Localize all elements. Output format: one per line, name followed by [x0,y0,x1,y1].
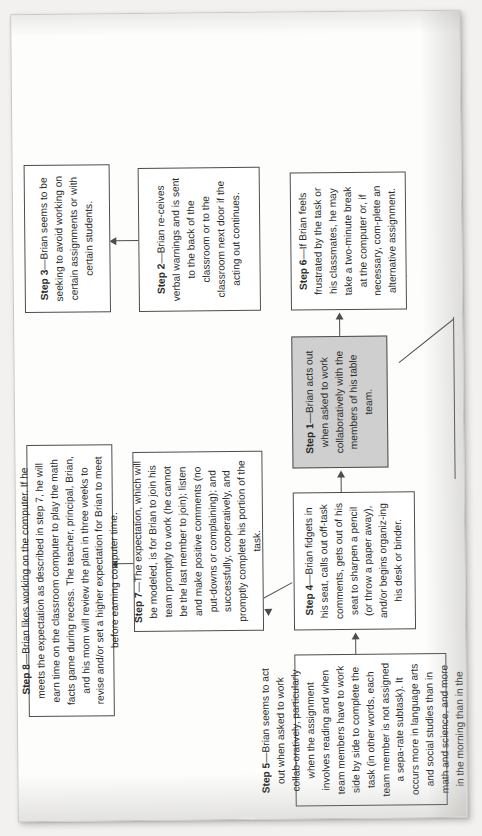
flow-node-step5-dash: — [260,753,271,763]
flow-node-step4-dash: — [303,575,314,585]
flow-node-step1-label: Step 1 [304,423,315,454]
edge-step5-to-step6-stem [453,317,456,479]
flow-node-step3-text: Step 3—Brian seems to be seeking to avoi… [37,173,98,304]
edge-step2-to-step3 [114,240,140,241]
flow-node-step2-body: Brian re-ceives verbal warnings and is s… [155,178,242,302]
edge-step5-to-step4 [355,638,356,654]
flow-node-step3-dash: — [39,259,50,269]
flow-node-step8-dash: — [20,654,31,664]
flow-node-step6-body: If Brian feels frustrated by the task or… [296,186,398,296]
flowchart-canvas: Step 8—Brian likes working on the comput… [20,19,458,813]
flow-node-step8-label: Step 8 [20,664,31,695]
edge-step4-to-step1-arrowhead [337,470,345,477]
flow-node-step8-text: Step 8—Brian likes working on the comput… [17,453,124,708]
flow-node-step4[interactable]: Step 4—Brian fidgets in his seat, calls … [293,491,416,630]
document-paper: Step 8—Brian likes working on the comput… [10,10,468,822]
flow-node-step1-dash: — [304,413,315,423]
flow-node-step7-label: Step 7 [132,592,143,623]
flow-node-step4-label: Step 4 [303,585,314,616]
flow-node-step5-label: Step 5 [260,763,271,794]
flow-node-step5-body: Brian seems to act out when asked to wor… [259,663,467,797]
flow-node-step6[interactable]: Step 6—If Brian feels frustrated by the … [290,171,407,310]
flow-node-step1-text: Step 1—Brian acts out when asked to work… [302,345,378,460]
flow-node-step3[interactable]: Step 3—Brian seems to be seeking to avoi… [24,164,111,313]
flow-node-step6-text: Step 6—If Brian feels frustrated by the … [295,180,401,301]
flow-node-step5-text: Step 5—Brian seems to act out when asked… [258,662,467,798]
flow-node-step2-text: Step 2—Brian re-ceives verbal warnings a… [154,176,245,303]
flow-node-step7-text: Step 7—The expectation, which will be mo… [130,460,266,623]
flow-node-step4-text: Step 4—Brian fidgets in his seat, calls … [301,500,407,621]
flow-node-step7-dash: — [132,582,143,592]
edge-step5-to-step6 [399,318,454,363]
flow-node-step6-label: Step 6 [297,259,308,290]
flow-node-step4-body: Brian fidgets in his seat, calls out off… [302,503,404,619]
flow-node-step8-body: Brian likes working on the computer. If … [18,456,121,705]
flow-node-step7-body: The expectation, which will be modeled, … [131,460,263,621]
flow-node-step1[interactable]: Step 1—Brian acts out when asked to work… [291,336,388,469]
flow-node-step6-dash: — [297,249,308,259]
edge-step4-to-step1 [341,476,342,492]
flow-node-step2-label: Step 2 [156,263,167,294]
flow-node-step7[interactable]: Step 7—The expectation, which will be mo… [132,451,264,632]
paper-inner: Step 8—Brian likes working on the comput… [11,11,467,821]
edge-step1-to-step2 [339,318,340,336]
scanned-page-background: Step 8—Brian likes working on the comput… [0,0,482,836]
flow-node-step5[interactable]: Step 5—Brian seems to act out when asked… [294,653,447,806]
edge-step5-to-step4-arrowhead [351,632,359,639]
flow-node-step8[interactable]: Step 8—Brian likes working on the comput… [26,444,115,717]
edge-step1-to-step2-arrowhead [335,312,343,319]
flow-node-step3-label: Step 3 [39,270,50,301]
flow-node-step2[interactable]: Step 2—Brian re-ceives verbal warnings a… [138,167,261,312]
flow-node-step2-dash: — [155,253,166,263]
